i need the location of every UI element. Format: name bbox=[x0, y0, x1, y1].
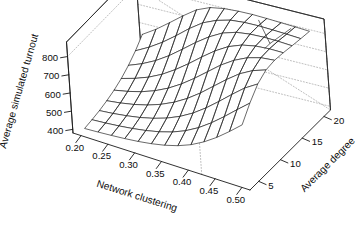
y-tick-3 bbox=[324, 116, 331, 119]
perspective-canvas: 4005006007008000.200.250.300.350.400.450… bbox=[0, 0, 362, 242]
y-tick-label: 15 bbox=[312, 136, 323, 147]
z-gridline-left-800 bbox=[68, 0, 137, 57]
right-vertical-edge bbox=[324, 19, 331, 110]
y-tick-label: 5 bbox=[268, 180, 273, 191]
x-axis-title: Network clustering bbox=[95, 178, 179, 214]
z-tick-4 bbox=[61, 57, 68, 58]
z-tick-label: 700 bbox=[43, 70, 59, 81]
x-tick-label: 0.25 bbox=[92, 150, 111, 161]
y-tick-label: 20 bbox=[334, 115, 345, 126]
x-tick-label: 0.40 bbox=[173, 176, 192, 187]
z-tick-label: 600 bbox=[45, 89, 61, 100]
z-tick-1 bbox=[64, 111, 71, 112]
x-tick-label: 0.30 bbox=[119, 159, 138, 170]
y-tick-1 bbox=[280, 160, 287, 163]
y-axis-title: Average degree bbox=[298, 135, 357, 194]
surface-mesh bbox=[85, 8, 310, 146]
z-tick-0 bbox=[66, 129, 73, 130]
x-tick-label: 0.35 bbox=[146, 168, 165, 179]
y-tick-0 bbox=[259, 181, 266, 184]
top-left-rim bbox=[67, 0, 136, 42]
x-tick-label: 0.50 bbox=[226, 194, 245, 205]
x-tick-label: 0.45 bbox=[200, 185, 219, 196]
z-tick-label: 500 bbox=[46, 107, 62, 118]
z-tick-3 bbox=[62, 75, 69, 76]
z-tick-label: 400 bbox=[47, 125, 63, 136]
x-tick-label: 0.20 bbox=[66, 142, 85, 153]
y-tick-2 bbox=[302, 138, 309, 141]
z-tick-label: 800 bbox=[42, 52, 58, 63]
z-axis-title: Average simulated turnout bbox=[0, 32, 40, 149]
z-axis-line bbox=[67, 42, 74, 133]
z-tick-2 bbox=[63, 93, 70, 94]
surface-plot-figure: 4005006007008000.200.250.300.350.400.450… bbox=[0, 0, 362, 242]
y-tick-label: 10 bbox=[290, 158, 301, 169]
